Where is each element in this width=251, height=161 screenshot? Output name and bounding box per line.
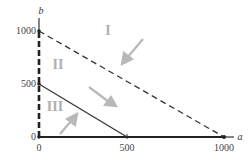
point-0-500 <box>37 82 41 86</box>
point-1000-0 <box>222 135 226 139</box>
x-tick-1000: 1000 <box>214 142 234 153</box>
x-tick-500: 500 <box>120 142 135 153</box>
region-label-III: III <box>47 99 63 114</box>
arrow-region-II-icon <box>89 87 116 106</box>
y-tick-1000: 1000 <box>16 25 36 36</box>
point-origin <box>37 135 41 139</box>
point-0-1000 <box>37 29 41 33</box>
y-tick-0: 0 <box>31 131 36 142</box>
dashed-line <box>39 31 224 137</box>
diagram: 1000 500 0 0 500 1000 b a I II III <box>0 0 251 161</box>
y-tick-500: 500 <box>21 78 36 89</box>
region-label-I: I <box>105 23 110 38</box>
x-tick-0: 0 <box>37 142 42 153</box>
arrow-region-I-icon <box>122 39 143 64</box>
region-label-II: II <box>53 57 64 72</box>
y-axis-label: b <box>39 5 44 16</box>
x-axis-label: a <box>238 131 243 142</box>
arrow-region-III-icon <box>60 114 77 134</box>
